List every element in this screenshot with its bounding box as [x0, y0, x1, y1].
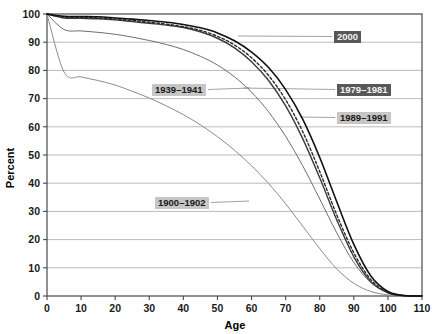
- y-tick-label: 50: [28, 149, 40, 161]
- x-tick-label: 90: [348, 302, 360, 314]
- survival-curve-chart: 0102030405060708090100 01020304050607080…: [0, 0, 442, 334]
- x-tick-label: 70: [280, 302, 292, 314]
- series-label-1900-1902: 1900–1902: [155, 197, 209, 209]
- x-tick-label: 50: [212, 302, 224, 314]
- x-tick-label: 110: [414, 302, 431, 314]
- gridlines: [47, 42, 422, 268]
- y-tick-label: 20: [28, 233, 40, 245]
- y-tick-label: 100: [22, 8, 40, 20]
- x-axis-title: Age: [225, 319, 246, 331]
- y-tick-label: 40: [28, 177, 40, 189]
- y-tick-label: 0: [34, 290, 40, 302]
- x-tick-label: 100: [379, 302, 397, 314]
- series-label-1939-1941: 1939–1941: [152, 84, 206, 96]
- y-tick-label: 80: [28, 64, 40, 76]
- x-tick-label: 80: [314, 302, 326, 314]
- x-axis-ticks: 0102030405060708090100110: [44, 296, 431, 314]
- x-tick-label: 10: [75, 302, 87, 314]
- x-tick-label: 0: [44, 302, 50, 314]
- y-tick-label: 70: [28, 92, 40, 104]
- x-tick-label: 40: [178, 302, 190, 314]
- y-tick-label: 10: [28, 262, 40, 274]
- y-axis-title: Percent: [4, 147, 16, 188]
- label-leader-lines: [208, 36, 335, 203]
- series-label-1979-1981: 1979–1981: [337, 84, 391, 96]
- y-axis-ticks: 0102030405060708090100: [22, 8, 47, 302]
- x-tick-label: 30: [143, 302, 155, 314]
- y-tick-label: 60: [28, 121, 40, 133]
- series-label-1989-1991: 1989–1991: [337, 112, 391, 124]
- y-tick-label: 90: [28, 36, 40, 48]
- chart-canvas: 0102030405060708090100 01020304050607080…: [0, 0, 442, 334]
- series-label-2000: 2000: [334, 31, 361, 43]
- x-tick-label: 60: [246, 302, 258, 314]
- y-tick-label: 30: [28, 205, 40, 217]
- x-tick-label: 20: [109, 302, 121, 314]
